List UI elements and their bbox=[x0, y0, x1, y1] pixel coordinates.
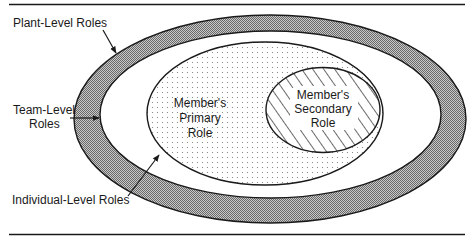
team-level-label-line1: Team-Level bbox=[13, 103, 75, 117]
primary-role-label-line2: Primary bbox=[179, 111, 220, 125]
plant-level-label: Plant-Level Roles bbox=[13, 16, 107, 30]
primary-role-label-line1: Member's bbox=[174, 96, 226, 110]
secondary-role-label-line2: Secondary bbox=[294, 102, 351, 116]
team-level-label-line2: Roles bbox=[29, 117, 60, 131]
plant-arrow bbox=[103, 30, 116, 53]
individual-level-label: Individual-Level Roles bbox=[12, 193, 129, 207]
secondary-role-label-line3: Role bbox=[311, 116, 336, 130]
primary-role-label-line3: Role bbox=[188, 126, 213, 140]
secondary-role-label-line1: Member's bbox=[297, 88, 349, 102]
nested-roles-diagram: Plant-Level Roles Team-Level Roles Indiv… bbox=[0, 0, 475, 241]
